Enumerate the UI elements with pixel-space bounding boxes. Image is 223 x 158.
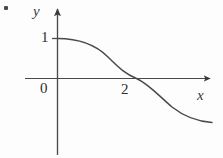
x-axis-label: x (197, 88, 204, 103)
y-axis-label: y (33, 4, 40, 19)
origin-label: 0 (40, 81, 48, 96)
y-tick-label-1: 1 (41, 30, 49, 45)
plotted-curve (58, 39, 213, 123)
figure-canvas: y x 1 0 2 (0, 0, 223, 158)
graph-svg (0, 0, 223, 158)
x-tick-label-2: 2 (121, 82, 129, 97)
